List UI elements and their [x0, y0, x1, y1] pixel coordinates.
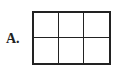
grid-cell: [59, 13, 84, 38]
grid-figure: [32, 11, 111, 65]
grid-cell: [84, 13, 109, 38]
grid-cell: [59, 38, 84, 63]
option-label: A.: [6, 32, 20, 46]
grid-cell: [34, 38, 59, 63]
grid-cell: [84, 38, 109, 63]
grid-cell: [34, 13, 59, 38]
